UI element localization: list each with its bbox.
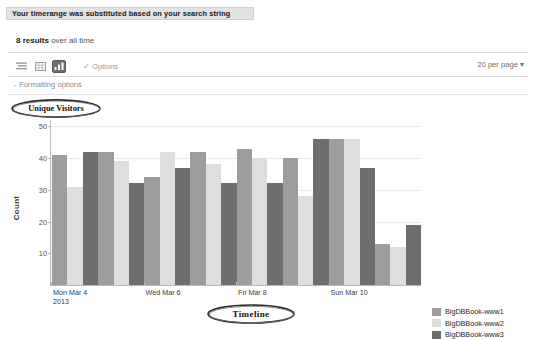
legend-item[interactable]: BigDBBook-www3 (432, 330, 504, 339)
y-tick-mark (48, 190, 51, 191)
bar[interactable] (144, 177, 159, 285)
bar[interactable] (406, 225, 421, 285)
divider-formatting (8, 94, 528, 95)
legend-label: BigDBBook-www1 (445, 307, 504, 316)
y-tick-mark (48, 253, 51, 254)
y-tick-mark (48, 222, 51, 223)
y-tick-label: 10 (39, 249, 47, 258)
annotation-timeline-text: Timeline (232, 309, 269, 319)
bar[interactable] (190, 152, 205, 285)
legend-label: BigDBBook-www3 (445, 330, 504, 339)
options-button[interactable]: ✓ Options (83, 62, 118, 71)
y-tick-label: 40 (39, 154, 47, 163)
bar-group (144, 120, 190, 285)
timerange-banner-text: Your timerange was substituted based on … (12, 9, 230, 18)
legend-swatch (432, 331, 441, 339)
formatting-options-toggle[interactable]: › Formatting options (14, 80, 82, 89)
bar[interactable] (206, 164, 221, 285)
legend-item[interactable]: BigDBBook-www2 (432, 319, 504, 328)
bar[interactable] (344, 139, 359, 285)
bar-group (98, 120, 144, 285)
x-tick-mark (144, 282, 145, 286)
bar[interactable] (283, 158, 298, 285)
bar-group (283, 120, 329, 285)
per-page-label: 20 per page (477, 60, 518, 69)
results-scope: over all time (49, 36, 94, 45)
chevron-right-icon: › (14, 82, 16, 88)
bar[interactable] (83, 152, 98, 285)
bar[interactable] (360, 168, 375, 285)
bar[interactable] (375, 244, 390, 285)
x-tick-mark (329, 282, 330, 286)
y-tick-label: 30 (39, 185, 47, 194)
x-tick-label: Mon Mar 42013 (53, 288, 87, 306)
options-label: Options (92, 62, 118, 71)
options-check-icon: ✓ (83, 62, 90, 71)
bar-group (190, 120, 236, 285)
chart-legend: BigDBBook-www1 BigDBBook-www2 BigDBBook-… (432, 307, 504, 339)
bar[interactable] (67, 187, 82, 285)
legend-swatch (432, 308, 441, 316)
bar[interactable] (329, 139, 344, 285)
bar[interactable] (390, 247, 405, 285)
x-tick-label: Fri Mar 8 (238, 288, 267, 297)
bar[interactable] (221, 183, 236, 285)
divider-toolbar (8, 76, 528, 77)
timeline-bar-chart: Count 1020304050 Mon Mar 42013Wed Mar 6F… (0, 108, 536, 308)
bar[interactable] (237, 149, 252, 285)
legend-swatch (432, 319, 441, 327)
bar[interactable] (267, 183, 282, 285)
x-tick-label: Sun Mar 10 (331, 288, 368, 297)
y-tick-mark (48, 158, 51, 159)
bar-group (52, 120, 98, 285)
bar[interactable] (252, 158, 267, 285)
divider-top (8, 52, 528, 53)
bar-group (375, 120, 421, 285)
x-tick-label: Wed Mar 6 (146, 288, 181, 297)
bar[interactable] (175, 168, 190, 285)
y-tick-label: 50 (39, 122, 47, 131)
bar-groups (52, 120, 421, 285)
plot-area: 1020304050 (50, 120, 421, 286)
bar-group (237, 120, 283, 285)
annotation-timeline: Timeline (206, 303, 296, 325)
y-tick-mark (48, 126, 51, 127)
x-tick-mark (236, 282, 237, 286)
timerange-banner: Your timerange was substituted based on … (6, 7, 254, 20)
view-toolbar: ✓ Options (14, 58, 118, 74)
per-page-dropdown[interactable]: 20 per page ▾ (477, 60, 524, 69)
bar[interactable] (52, 155, 67, 285)
x-tick-mark (51, 282, 52, 286)
bar[interactable] (98, 152, 113, 285)
legend-item[interactable]: BigDBBook-www1 (432, 307, 504, 316)
results-summary: 8 results over all time (16, 36, 94, 45)
results-count: 8 results (16, 36, 49, 45)
bar[interactable] (298, 196, 313, 285)
table-view-icon[interactable] (33, 60, 47, 73)
y-axis-label: Count (12, 196, 21, 221)
bar[interactable] (114, 161, 129, 285)
chevron-down-icon: ▾ (520, 60, 524, 69)
bar[interactable] (160, 152, 175, 285)
y-tick-label: 20 (39, 217, 47, 226)
legend-label: BigDBBook-www2 (445, 319, 504, 328)
formatting-options-label: Formatting options (19, 80, 82, 89)
bar[interactable] (313, 139, 328, 285)
bar-group (329, 120, 375, 285)
chart-view-icon[interactable] (52, 60, 66, 73)
x-tick-label-line2: 2013 (53, 297, 87, 306)
bar[interactable] (129, 183, 144, 285)
list-view-icon[interactable] (14, 60, 28, 73)
